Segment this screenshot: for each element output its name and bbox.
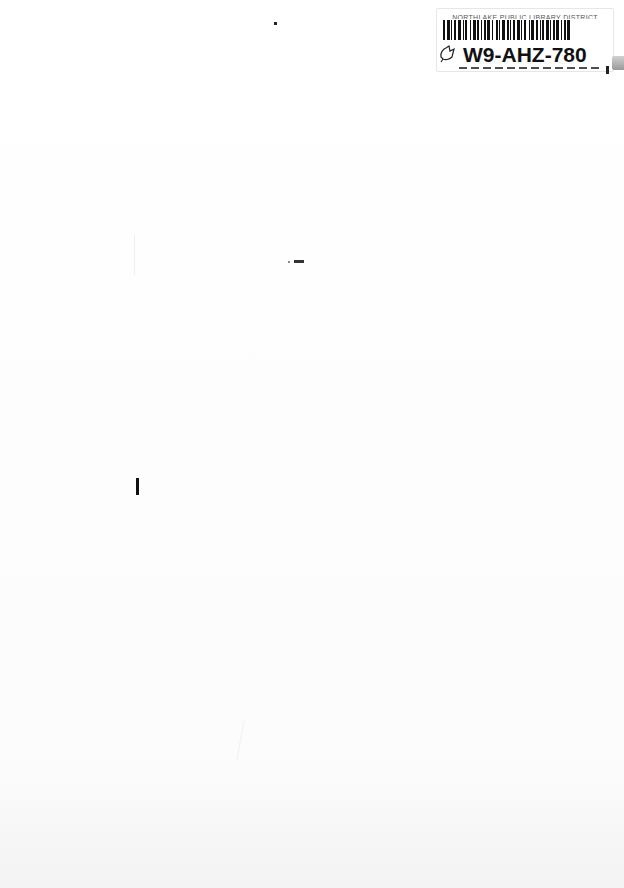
- scan-speck: [288, 261, 290, 263]
- faint-bleed-line: [134, 235, 135, 275]
- edge-mark: [606, 66, 609, 74]
- label-bottom-row: 3 1185 00 ... 22 W9-AHZ-780: [437, 41, 613, 69]
- library-name: NORTHLAKE PUBLIC LIBRARY DISTRICT: [437, 13, 613, 19]
- faint-bleed-line: [237, 720, 245, 760]
- scan-speck: [294, 260, 304, 263]
- barcode: [443, 20, 607, 40]
- call-number: W9-AHZ-780: [461, 43, 589, 67]
- scan-speck: [274, 22, 277, 25]
- library-barcode-label: NORTHLAKE PUBLIC LIBRARY DISTRICT: [436, 8, 614, 72]
- dashed-underline: [459, 67, 599, 69]
- scanned-page: NORTHLAKE PUBLIC LIBRARY DISTRICT: [0, 0, 624, 888]
- scan-mark: [136, 478, 139, 495]
- bookmark-leaf-icon: [439, 45, 455, 63]
- page-edge-tab: [612, 56, 624, 70]
